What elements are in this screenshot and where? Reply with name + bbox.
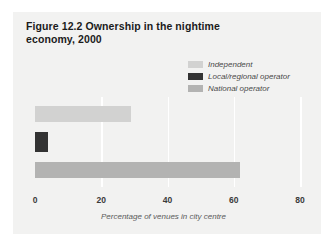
legend-item-label: National operator <box>208 84 269 93</box>
x-tick-label: 60 <box>229 195 238 205</box>
x-axis-tick-labels: 020406080 <box>0 195 327 209</box>
legend-item-label: Independent <box>208 60 253 69</box>
x-tick-label: 40 <box>163 195 172 205</box>
legend-item: Independent <box>188 59 320 70</box>
page-title: Figure 12.2 Ownership in the nightime ec… <box>26 20 246 45</box>
x-tick-label: 20 <box>97 195 106 205</box>
x-tick-label: 80 <box>295 195 304 205</box>
legend-swatch-icon <box>188 85 203 92</box>
legend-item: Local/regional operator <box>188 71 320 82</box>
chart-legend: IndependentLocal/regional operatorNation… <box>188 59 320 95</box>
legend-swatch-icon <box>188 73 203 80</box>
bar-local-regional-operator <box>35 132 48 152</box>
figure-container: Figure 12.2 Ownership in the nightime ec… <box>0 0 327 246</box>
bar-national-operator <box>35 162 240 178</box>
bar-independent <box>35 106 131 122</box>
x-axis-label: Percentage of venues in city centre <box>0 212 327 221</box>
legend-swatch-icon <box>188 61 203 68</box>
x-tick-label: 0 <box>33 195 38 205</box>
legend-item-label: Local/regional operator <box>208 72 290 81</box>
gridline <box>300 97 302 187</box>
legend-item: National operator <box>188 83 320 94</box>
plot-area <box>35 97 300 187</box>
